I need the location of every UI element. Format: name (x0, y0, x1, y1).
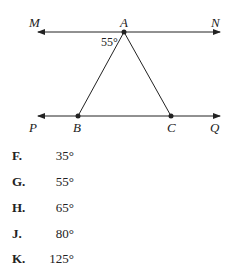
label-c: C (167, 120, 176, 135)
choice-letter: G. (12, 174, 25, 190)
point-a (122, 30, 127, 35)
label-p: P (28, 120, 37, 135)
choice-letter: H. (12, 200, 25, 216)
choice-value: 35° (44, 148, 74, 164)
label-m: M (28, 15, 41, 30)
choice-value: 55° (44, 174, 74, 190)
label-n: N (210, 15, 221, 30)
choice-letter: F. (12, 148, 22, 164)
point-b (76, 114, 81, 119)
choice-value: 80° (44, 226, 74, 242)
label-b: B (73, 120, 81, 135)
choice-letter: K. (12, 251, 25, 267)
label-q: Q (210, 120, 220, 135)
point-c (169, 114, 174, 119)
choice-value: 65° (44, 200, 74, 216)
angle-label: 55° (101, 35, 118, 49)
choice-letter: J. (12, 226, 22, 242)
label-a: A (119, 15, 128, 30)
geometry-figure: M A N 55° P B C Q (0, 0, 246, 140)
choice-value: 125° (44, 251, 74, 267)
segment-ac (124, 32, 171, 116)
